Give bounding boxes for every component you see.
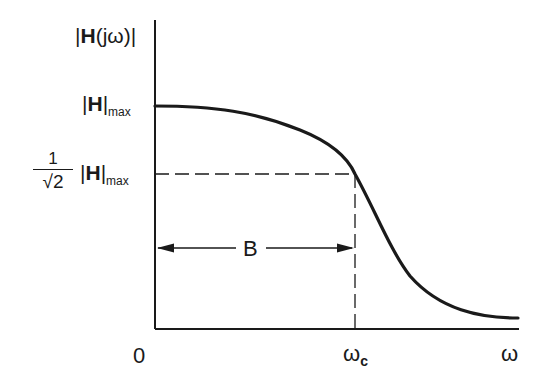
fraction-denominator: √2 [31, 171, 75, 193]
diagram-canvas [0, 0, 542, 376]
x-axis-label: ω [501, 341, 518, 367]
x-tick-cutoff-label: ωc [343, 341, 368, 367]
abs-bar-close: | [131, 24, 136, 47]
cutoff-subscript: c [360, 353, 368, 369]
h-symbol: H [87, 92, 102, 115]
max-subscript: max [106, 174, 129, 188]
y-tick-max-label: |H|max [82, 92, 131, 116]
h-argument: (jω) [96, 24, 131, 47]
fraction-numerator: 1 [31, 150, 75, 168]
h-symbol: H [85, 161, 100, 184]
y-tick-half-power-label: |H|max [80, 161, 129, 185]
arrowhead-left-icon [157, 244, 174, 253]
omega-symbol: ω [343, 341, 360, 366]
y-axis-label: |H(jω)| [75, 24, 136, 48]
fraction-bar [33, 169, 73, 170]
x-tick-origin-label: 0 [133, 343, 145, 369]
arrowhead-right-icon [337, 244, 354, 253]
h-symbol: H [80, 24, 95, 47]
max-subscript: max [108, 105, 131, 119]
half-power-fraction: 1 √2 [31, 150, 75, 193]
bandwidth-label: B [243, 236, 258, 262]
magnitude-curve [155, 106, 518, 318]
